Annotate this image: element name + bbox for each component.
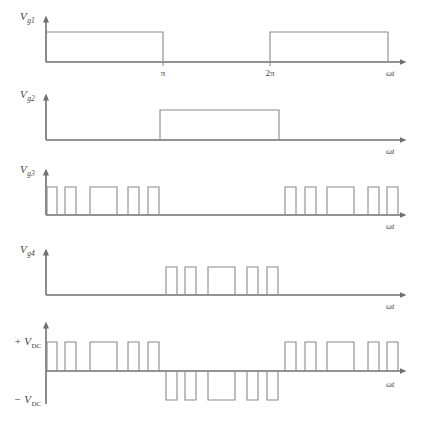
pulse — [166, 371, 177, 400]
pulse — [327, 342, 354, 371]
pulse — [148, 187, 159, 215]
pulse — [368, 342, 379, 371]
pulse — [185, 267, 196, 295]
vout-negative-label: − VDC — [14, 393, 41, 408]
vg3-axes — [46, 175, 400, 215]
pulse — [128, 342, 139, 371]
pulse — [47, 342, 57, 371]
vg1-tick-label: 2π — [265, 68, 275, 78]
vg1-label: Vg1 — [20, 10, 35, 25]
pulse — [285, 187, 296, 215]
vout-positive-label-subscript: DC — [31, 342, 41, 350]
vg3-label-subscript: g3 — [27, 169, 35, 178]
pulse — [160, 110, 279, 140]
pulse — [46, 32, 163, 62]
vg1-label-subscript: g1 — [27, 16, 35, 25]
vg4-axis-label: ωt — [386, 301, 395, 311]
pulse — [270, 32, 388, 62]
waveform-diagram: Vg1π2πωtVg2ωtVg3ωtVg4ωt+ VDC− VDCωt — [0, 0, 424, 439]
pulse — [387, 342, 398, 371]
vg3-pulses — [47, 187, 398, 215]
vg4-label-subscript: g4 — [27, 249, 35, 258]
pulse — [90, 342, 117, 371]
vout-negative-label-subscript: DC — [31, 400, 41, 408]
pulse — [148, 342, 159, 371]
vout-positive-pulses — [47, 342, 398, 371]
vg2-axis-label: ωt — [386, 146, 395, 156]
vout-axis-label: ωt — [386, 379, 395, 389]
vg1-pulses — [46, 32, 388, 62]
vout-negative-pulses — [166, 371, 278, 400]
vout-positive-label: + VDC — [14, 335, 41, 350]
pulse — [247, 267, 258, 295]
vg4-axes — [46, 255, 400, 295]
pulse — [47, 187, 57, 215]
pulse — [90, 187, 117, 215]
vg4-label: Vg4 — [20, 243, 35, 258]
pulse — [185, 371, 196, 400]
pulse — [285, 342, 296, 371]
figure-canvas: Vg1π2πωtVg2ωtVg3ωtVg4ωt+ VDC− VDCωt — [0, 0, 424, 439]
pulse — [305, 342, 316, 371]
pulse — [327, 187, 354, 215]
vg2-axes — [46, 100, 400, 140]
pulse — [65, 342, 76, 371]
vg3-label: Vg3 — [20, 163, 35, 178]
pulse — [267, 267, 278, 295]
pulse — [166, 267, 177, 295]
pulse — [305, 187, 316, 215]
vg1-axis-label: ωt — [386, 68, 395, 78]
pulse — [208, 267, 235, 295]
vg2-label: Vg2 — [20, 88, 35, 103]
pulse — [208, 371, 235, 400]
vg2-label-subscript: g2 — [27, 94, 35, 103]
pulse — [368, 187, 379, 215]
vg4-pulses — [166, 267, 278, 295]
pulse — [128, 187, 139, 215]
vg1-axes — [46, 22, 400, 62]
pulse — [387, 187, 398, 215]
pulse — [247, 371, 258, 400]
pulse — [267, 371, 278, 400]
vg1-tick-label: π — [161, 68, 166, 78]
vg3-axis-label: ωt — [386, 221, 395, 231]
pulse — [65, 187, 76, 215]
vg2-pulses — [160, 110, 279, 140]
